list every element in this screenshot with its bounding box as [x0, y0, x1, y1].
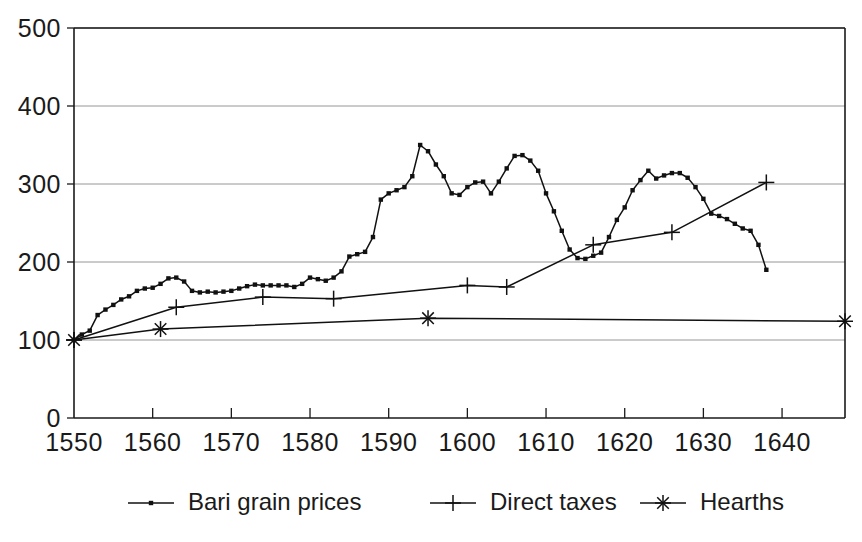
series-0-point-80-dot-marker [701, 197, 705, 201]
legend-item-direct-taxes[interactable]: Direct taxes [430, 488, 617, 515]
legend-item-hearths[interactable]: Hearths [640, 488, 784, 515]
series-0-point-13-dot-marker [174, 275, 178, 279]
series-0-point-57-dot-marker [520, 153, 524, 157]
chart-container: 0100200300400500 15501560157015801590160… [0, 0, 862, 542]
series-0-point-18-dot-marker [213, 290, 217, 294]
series-0-point-60-dot-marker [544, 191, 548, 195]
series-0-point-2-dot-marker [88, 328, 92, 332]
series-0-point-72-dot-marker [638, 178, 642, 182]
series-0-point-88-dot-marker [764, 268, 768, 272]
series-0-point-8-dot-marker [135, 289, 139, 293]
series-0-point-77-dot-marker [678, 171, 682, 175]
x-tick-label-1580: 1580 [281, 428, 339, 456]
series-0-point-47-dot-marker [442, 174, 446, 178]
series-0-point-49-dot-marker [457, 193, 461, 197]
x-tick-label-1570: 1570 [203, 428, 261, 456]
series-0-point-19-dot-marker [221, 289, 225, 293]
series-0-point-85-dot-marker [741, 226, 745, 230]
series-0-point-54-dot-marker [497, 179, 501, 183]
series-0-point-3-dot-marker [95, 313, 99, 317]
series-0-point-32-dot-marker [324, 279, 328, 283]
series-0-point-12-dot-marker [166, 276, 170, 280]
series-0-point-37-dot-marker [363, 250, 367, 254]
series-0-point-36-dot-marker [355, 252, 359, 256]
series-0-point-11-dot-marker [158, 282, 162, 286]
series-hearths [66, 310, 853, 348]
series-0-point-50-dot-marker [465, 185, 469, 189]
y-tick-label-100: 100 [18, 326, 61, 354]
series-0-point-44-dot-marker [418, 143, 422, 147]
series-0-point-28-dot-marker [292, 285, 296, 289]
series-0-point-10-dot-marker [150, 286, 154, 290]
series-0-point-78-dot-marker [685, 176, 689, 180]
series-line-direct-taxes [74, 182, 766, 340]
series-0-point-31-dot-marker [316, 277, 320, 281]
series-0-point-14-dot-marker [182, 279, 186, 283]
legend-label-1: Direct taxes [490, 488, 617, 515]
series-0-point-40-dot-marker [386, 191, 390, 195]
series-group [66, 143, 853, 348]
x-tick-label-1600: 1600 [439, 428, 497, 456]
x-tick-label-1640: 1640 [753, 428, 811, 456]
series-0-point-61-dot-marker [552, 209, 556, 213]
series-0-point-82-dot-marker [717, 214, 721, 218]
series-0-point-26-dot-marker [276, 283, 280, 287]
series-0-point-41-dot-marker [394, 188, 398, 192]
series-0-point-75-dot-marker [662, 173, 666, 177]
series-0-point-38-dot-marker [371, 235, 375, 239]
series-0-point-7-dot-marker [127, 294, 131, 298]
series-0-point-20-dot-marker [229, 289, 233, 293]
series-0-point-64-dot-marker [575, 256, 579, 260]
x-tick-label-1560: 1560 [124, 428, 182, 456]
series-0-point-56-dot-marker [512, 154, 516, 158]
x-tick-label-1630: 1630 [675, 428, 733, 456]
series-0-point-66-dot-marker [591, 254, 595, 258]
series-0-point-27-dot-marker [284, 283, 288, 287]
series-line-hearths [74, 318, 845, 340]
y-tick-label-400: 400 [18, 92, 61, 120]
series-0-point-70-dot-marker [623, 205, 627, 209]
grid-lines [74, 28, 845, 340]
series-0-point-43-dot-marker [410, 174, 414, 178]
x-tick-label-1610: 1610 [517, 428, 575, 456]
series-0-point-53-dot-marker [489, 191, 493, 195]
series-0-point-69-dot-marker [615, 218, 619, 222]
series-0-point-42-dot-marker [402, 185, 406, 189]
series-0-point-39-dot-marker [379, 197, 383, 201]
legend-label-0: Bari grain prices [188, 488, 361, 515]
series-0-point-65-dot-marker [583, 257, 587, 261]
series-0-point-9-dot-marker [143, 286, 147, 290]
series-0-point-4-dot-marker [103, 307, 107, 311]
series-0-point-83-dot-marker [725, 217, 729, 221]
series-0-point-59-dot-marker [536, 169, 540, 173]
y-tick-label-200: 200 [18, 248, 61, 276]
series-0-point-51-dot-marker [473, 180, 477, 184]
series-0-point-87-dot-marker [756, 243, 760, 247]
x-tick-label-1590: 1590 [360, 428, 418, 456]
series-0-point-55-dot-marker [505, 166, 509, 170]
series-0-point-15-dot-marker [190, 289, 194, 293]
series-0-point-35-dot-marker [347, 254, 351, 258]
series-0-point-76-dot-marker [670, 171, 674, 175]
series-0-point-79-dot-marker [693, 185, 697, 189]
series-0-point-22-dot-marker [245, 284, 249, 288]
series-0-point-1-dot-marker [80, 332, 84, 336]
legend-item-bari-grain-prices[interactable]: Bari grain prices [128, 488, 361, 515]
series-0-point-25-dot-marker [268, 283, 272, 287]
series-0-point-67-dot-marker [599, 250, 603, 254]
series-0-point-30-dot-marker [308, 275, 312, 279]
series-0-point-73-dot-marker [646, 169, 650, 173]
series-0-point-21-dot-marker [237, 286, 241, 290]
series-0-point-68-dot-marker [607, 235, 611, 239]
series-0-point-84-dot-marker [733, 222, 737, 226]
series-0-point-58-dot-marker [528, 158, 532, 162]
x-axis-ticks: 1550156015701580159016001610162016301640 [45, 408, 811, 456]
chart-legend: Bari grain pricesDirect taxesHearths [128, 488, 784, 515]
series-0-point-52-dot-marker [481, 179, 485, 183]
legend-label-2: Hearths [700, 488, 784, 515]
series-0-point-74-dot-marker [654, 176, 658, 180]
series-0-point-5-dot-marker [111, 303, 115, 307]
series-0-point-34-dot-marker [339, 269, 343, 273]
series-0-point-71-dot-marker [630, 188, 634, 192]
series-0-point-29-dot-marker [300, 282, 304, 286]
